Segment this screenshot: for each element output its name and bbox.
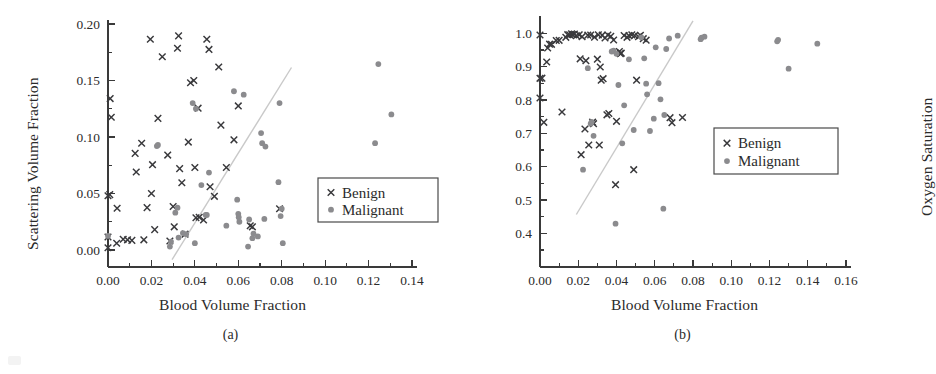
svg-text:0.08: 0.08: [270, 273, 294, 288]
panel-a-tag: (a): [8, 327, 453, 343]
svg-text:Malignant: Malignant: [342, 202, 404, 218]
svg-text:0.06: 0.06: [227, 273, 251, 288]
scatter-plot-b: 0.000.020.040.060.080.100.120.140.160.40…: [446, 0, 891, 374]
svg-text:0.6: 0.6: [515, 159, 532, 174]
svg-text:1.0: 1.0: [515, 26, 532, 41]
svg-text:0.20: 0.20: [77, 17, 101, 32]
svg-text:0.12: 0.12: [357, 273, 380, 288]
svg-text:0.04: 0.04: [605, 273, 629, 288]
svg-text:0.7: 0.7: [515, 126, 532, 141]
svg-text:0.8: 0.8: [515, 93, 532, 108]
scan-artifact: [8, 356, 21, 365]
svg-text:0.14: 0.14: [400, 273, 424, 288]
panel-b-y-axis-label: Oxygen Saturation: [918, 98, 936, 216]
svg-text:0.05: 0.05: [77, 186, 101, 201]
svg-text:0.06: 0.06: [643, 273, 667, 288]
svg-text:0.5: 0.5: [515, 193, 532, 208]
svg-text:0.00: 0.00: [96, 273, 120, 288]
scatter-plot-a: 0.000.020.040.060.080.100.120.140.000.05…: [0, 0, 445, 374]
svg-text:0.10: 0.10: [720, 273, 744, 288]
svg-text:0.4: 0.4: [515, 226, 532, 241]
svg-text:0.14: 0.14: [796, 273, 820, 288]
svg-text:0.9: 0.9: [515, 59, 532, 74]
svg-text:0.10: 0.10: [313, 273, 337, 288]
svg-text:0.04: 0.04: [183, 273, 207, 288]
svg-text:0.08: 0.08: [681, 273, 705, 288]
svg-text:0.02: 0.02: [567, 273, 590, 288]
svg-text:Benign: Benign: [738, 135, 782, 151]
svg-text:Malignant: Malignant: [738, 153, 800, 169]
panel-b-tag: (b): [460, 327, 905, 343]
svg-text:0.12: 0.12: [758, 273, 781, 288]
svg-text:0.02: 0.02: [140, 273, 163, 288]
panel-a-x-axis-label: Blood Volume Fraction: [10, 296, 455, 314]
svg-text:0.00: 0.00: [528, 273, 552, 288]
svg-text:0.10: 0.10: [77, 130, 101, 145]
panel-b: 0.000.020.040.060.080.100.120.140.160.40…: [446, 0, 891, 374]
svg-text:0.15: 0.15: [77, 73, 101, 88]
svg-text:0.00: 0.00: [77, 243, 101, 258]
svg-text:Benign: Benign: [342, 185, 386, 201]
svg-text:0.16: 0.16: [834, 273, 858, 288]
panel-a: 0.000.020.040.060.080.100.120.140.000.05…: [0, 0, 445, 374]
panel-a-y-axis-label: Scattering Volume Fraction: [24, 77, 42, 250]
panel-b-x-axis-label: Blood Volume Fraction: [462, 296, 907, 314]
series-benign: [105, 33, 283, 251]
